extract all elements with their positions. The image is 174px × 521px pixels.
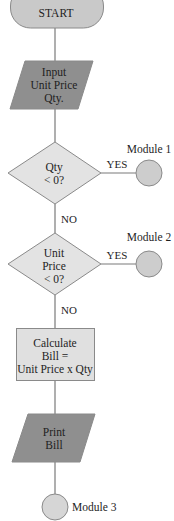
decision-price-negative: Unit Price < 0?: [8, 233, 101, 295]
module-1-connector: Module 1: [127, 143, 172, 186]
start-terminator: START: [11, 0, 104, 28]
decision-price-line-3: < 0?: [44, 273, 64, 285]
flowchart: START Input Unit Price Qty. Qty < 0? YES…: [0, 0, 174, 521]
io-shape: [12, 414, 95, 462]
input-line-2: Unit Price: [31, 79, 78, 91]
print-bill: Print Bill: [12, 414, 95, 462]
qty-no-label: NO: [61, 213, 77, 225]
qty-yes-label: YES: [107, 158, 128, 170]
price-no-label: NO: [61, 304, 77, 316]
calculate-line-3: Unit Price x Qty: [17, 363, 93, 376]
decision-price-line-2: Price: [42, 260, 66, 272]
print-line-2: Bill: [45, 439, 62, 451]
connector-circle-icon: [136, 251, 162, 277]
connector-circle-icon: [136, 160, 162, 186]
decision-price-line-1: Unit: [44, 247, 65, 259]
decision-qty-line-2: < 0?: [44, 174, 64, 186]
process-calculate-bill: Calculate Bill = Unit Price x Qty: [17, 329, 95, 381]
decision-qty-line-1: Qty: [45, 161, 63, 174]
connector-circle-icon: [42, 494, 68, 520]
module-2-connector: Module 2: [127, 231, 172, 277]
input-unit-price-qty: Input Unit Price Qty.: [10, 61, 93, 109]
module-3-label: Module 3: [72, 501, 117, 513]
module-1-label: Module 1: [127, 143, 172, 155]
input-line-3: Qty.: [44, 92, 64, 105]
module-3-connector: Module 3: [42, 494, 117, 520]
start-label: START: [39, 7, 74, 19]
module-2-label: Module 2: [127, 231, 172, 243]
calculate-line-1: Calculate: [33, 337, 76, 349]
price-yes-label: YES: [107, 249, 128, 261]
decision-shape: [8, 142, 101, 204]
calculate-line-2: Bill =: [42, 350, 69, 362]
print-line-1: Print: [43, 426, 66, 438]
decision-qty-negative: Qty < 0?: [8, 142, 101, 204]
input-line-1: Input: [42, 66, 67, 79]
